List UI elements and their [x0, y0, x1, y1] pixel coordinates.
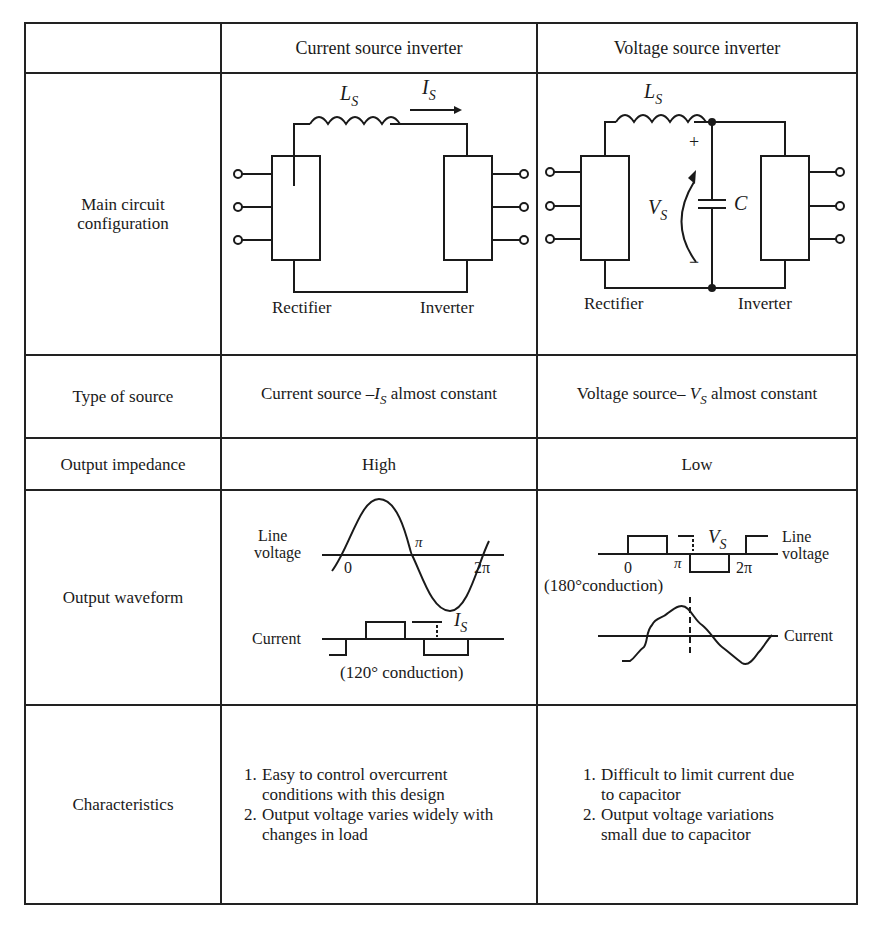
terminal-icon: [520, 170, 528, 178]
csi-characteristics: 1.Easy to control overcurrent conditions…: [222, 706, 536, 903]
rectifier-label: Rectifier: [272, 298, 332, 317]
row-label-waveform: Output waveform: [26, 491, 220, 704]
minus-sign: −: [689, 252, 699, 272]
list-item-number: 2.: [244, 805, 262, 845]
vsi-conduction-note: (180°conduction): [544, 576, 663, 595]
tick-0: 0: [344, 559, 352, 576]
tick-pi: π: [674, 555, 682, 571]
vsi-waveform: Line voltage 0 π 2π VS (180°conduction) …: [538, 491, 856, 704]
vsi-source-symbol: V: [690, 384, 700, 403]
terminal-icon: [520, 236, 528, 244]
arrow-icon: [454, 106, 462, 114]
list-item-text: Output voltage varies widely with change…: [262, 805, 514, 845]
list-item-text: Difficult to limit current due to capaci…: [601, 765, 811, 805]
row-label-circuit: Main circuit configuration: [26, 74, 220, 354]
capacitor-label: C: [734, 192, 748, 214]
row-label-impedance: Output impedance: [26, 439, 220, 489]
csi-source-type: Current source –IS almost constant: [222, 356, 536, 437]
rectifier-label: Rectifier: [584, 294, 644, 313]
terminal-icon: [836, 168, 844, 176]
vsi-line-label-1: Line: [782, 528, 811, 545]
csi-waveform: Line voltage 0 π 2π Current IS (120° con…: [222, 491, 536, 704]
vsi-current-label: Current: [784, 627, 833, 644]
inductor-icon: [310, 117, 400, 124]
list-item-number: 1.: [583, 765, 601, 805]
terminal-icon: [234, 203, 242, 211]
vsi-source-suffix: almost constant: [707, 384, 817, 403]
terminal-icon: [546, 168, 554, 176]
voltage-pulse-positive: [628, 536, 667, 554]
plus-sign: +: [689, 132, 699, 152]
terminal-icon: [836, 235, 844, 243]
inductor-icon: [616, 115, 706, 122]
inductor-label: LS: [339, 82, 358, 109]
csi-source-prefix: Current source –: [261, 384, 374, 403]
list-item: 2.Output voltage variations small due to…: [583, 805, 811, 845]
vsi-source-type: Voltage source– VS almost constant: [538, 356, 856, 437]
vsi-characteristics-list: 1.Difficult to limit current due to capa…: [583, 765, 811, 845]
vsi-impedance: Low: [538, 439, 856, 489]
csi-amp-label: IS: [453, 609, 467, 635]
header-vsi: Voltage source inverter: [538, 24, 856, 72]
voltage-label: VS: [648, 196, 667, 223]
current-pulse-positive: [366, 622, 405, 639]
tick-pi: π: [415, 534, 423, 550]
current-label: IS: [421, 76, 436, 103]
current-pulse-negative-start: [329, 639, 346, 655]
csi-current-label: Current: [252, 630, 301, 647]
terminal-icon: [546, 202, 554, 210]
csi-characteristics-list: 1.Easy to control overcurrent conditions…: [244, 765, 514, 845]
current-pulse-negative: [424, 639, 468, 655]
terminal-icon: [234, 236, 242, 244]
terminal-icon: [546, 235, 554, 243]
row-label-characteristics: Characteristics: [26, 706, 220, 903]
list-item-number: 1.: [244, 765, 262, 805]
vsi-circuit-diagram: LS + − VS C Rectifier Inverter: [538, 74, 856, 354]
list-item-text: Output voltage variations small due to c…: [601, 805, 811, 845]
vsi-line-label-2: voltage: [782, 545, 829, 563]
row-label-circuit-line1: Main circuit: [81, 195, 165, 214]
tick-2pi: 2π: [736, 559, 752, 576]
terminal-icon: [520, 203, 528, 211]
list-item-number: 2.: [583, 805, 601, 845]
csi-source-suffix: almost constant: [387, 384, 497, 403]
csi-line-label-2: voltage: [254, 544, 301, 562]
list-item: 1.Difficult to limit current due to capa…: [583, 765, 811, 805]
node-dot-icon: [708, 284, 716, 292]
list-item: 2.Output voltage varies widely with chan…: [244, 805, 514, 845]
tick-2pi: 2π: [474, 559, 490, 576]
vsi-characteristics: 1.Difficult to limit current due to capa…: [538, 706, 856, 903]
arrow-icon: [688, 170, 696, 184]
terminal-icon: [836, 202, 844, 210]
csi-impedance: High: [222, 439, 536, 489]
inductor-label: LS: [643, 80, 662, 107]
csi-circuit-diagram: LS IS Rectifier Inverter: [222, 74, 536, 354]
row-label-source: Type of source: [26, 356, 220, 437]
vsi-source-prefix: Voltage source–: [577, 384, 690, 403]
voltage-pulse-next: [746, 536, 768, 554]
inverter-label: Inverter: [420, 298, 474, 317]
csi-conduction-note: (120° conduction): [340, 663, 463, 682]
inverter-label: Inverter: [738, 294, 792, 313]
terminal-icon: [234, 170, 242, 178]
csi-line-label-1: Line: [258, 527, 287, 544]
list-item-text: Easy to control overcurrent conditions w…: [262, 765, 514, 805]
list-item: 1.Easy to control overcurrent conditions…: [244, 765, 514, 805]
node-dot-icon: [708, 118, 716, 126]
voltage-pulse-negative: [690, 554, 729, 572]
row-label-circuit-line2: configuration: [77, 214, 169, 233]
vsi-amp-label: VS: [708, 526, 727, 552]
header-csi: Current source inverter: [222, 24, 536, 72]
tick-0: 0: [624, 559, 632, 576]
